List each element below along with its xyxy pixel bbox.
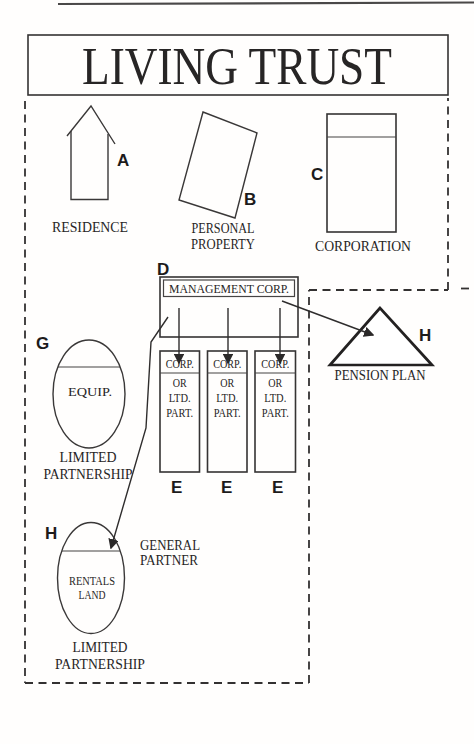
entity-box-3: CORP. OR LTD. PART. E (255, 351, 296, 497)
entity-box-1: CORP. OR LTD. PART. E (160, 351, 200, 497)
equipment-partnership-label-line1: LIMITED (60, 450, 117, 465)
equipment-tag: G (36, 334, 49, 353)
page-top-rule (58, 3, 474, 5)
personal-property-tag: B (244, 190, 256, 209)
entity-box-3-line4: PART. (262, 406, 289, 420)
rentals-partnership-node: H RENTALS LAND GENERAL PARTNER LIMITED P… (45, 523, 200, 673)
entity-box-2-line3: LTD. (216, 391, 238, 405)
entity-box-3-line1: CORP. (261, 357, 289, 371)
rentals-partnership-label-line2: PARTNERSHIP (55, 657, 145, 672)
management-corp-tag: D (157, 260, 169, 279)
living-trust-diagram: LIVING TRUST A RESIDENCE B PERSONAL PROP… (0, 0, 474, 744)
corporation-node: C CORPORATION (311, 114, 411, 254)
entity-box-3-tag: E (272, 478, 283, 497)
pension-plan-triangle (330, 308, 432, 365)
entity-box-2-tag: E (221, 478, 232, 497)
management-corp-label: MANAGEMENT CORP. (169, 281, 289, 296)
equipment-partnership-node: G EQUIP. LIMITED PARTNERSHIP (36, 334, 133, 482)
residence-tag: A (117, 151, 129, 170)
residence-node: A RESIDENCE (52, 106, 129, 235)
scanned-diagram-page: LIVING TRUST A RESIDENCE B PERSONAL PROP… (0, 0, 474, 744)
entity-box-1-line2: OR (173, 376, 188, 390)
entity-box-1-line3: LTD. (169, 391, 191, 405)
personal-property-label-line2: PROPERTY (191, 237, 255, 252)
equipment-asset-label: EQUIP. (68, 384, 112, 399)
entity-box-2: CORP. OR LTD. PART. E (208, 351, 248, 497)
pension-plan-tag: H (419, 326, 431, 345)
entity-box-3-line3: LTD. (264, 391, 286, 405)
entity-box-2-line2: OR (220, 376, 235, 390)
residence-label: RESIDENCE (52, 220, 128, 235)
general-partner-label-line2: PARTNER (140, 553, 199, 568)
residence-house-walls (71, 131, 108, 200)
rentals-asset-line1: RENTALS (69, 575, 115, 587)
entity-box-1-line4: PART. (166, 406, 193, 420)
arrow-management-to-pension-plan (282, 301, 373, 335)
equipment-partnership-label-line2: PARTNERSHIP (44, 467, 133, 482)
entity-box-1-tag: E (171, 478, 182, 497)
rentals-asset-line2: LAND (79, 589, 106, 601)
rentals-tag: H (45, 524, 57, 543)
page-title: LIVING TRUST (82, 38, 392, 95)
corporation-shape (327, 114, 396, 232)
entity-box-2-line4: PART. (214, 406, 241, 420)
entity-box-2-line1: CORP. (213, 357, 241, 371)
connectors (111, 301, 373, 548)
pension-plan-node: H PENSION PLAN (330, 308, 432, 383)
pension-plan-label: PENSION PLAN (335, 368, 426, 383)
rentals-partnership-label-line1: LIMITED (73, 640, 128, 655)
personal-property-node: B PERSONAL PROPERTY (179, 112, 257, 252)
general-partner-label-line1: GENERAL (140, 538, 200, 553)
corporation-label: CORPORATION (315, 239, 411, 254)
corporation-tag: C (311, 165, 323, 184)
entity-box-3-line2: OR (268, 376, 283, 390)
trust-title-block: LIVING TRUST (28, 35, 448, 95)
personal-property-label-line1: PERSONAL (192, 221, 255, 236)
